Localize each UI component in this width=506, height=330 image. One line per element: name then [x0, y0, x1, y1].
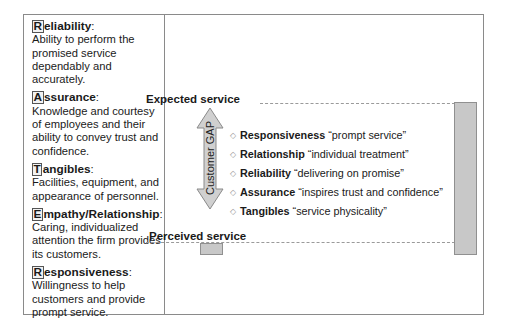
colon: : — [91, 163, 94, 175]
dimension-description: Facilities, equipment, and appearance of… — [32, 176, 164, 203]
expected-service-line — [260, 103, 455, 104]
dimension-title: esponsiveness — [44, 265, 129, 279]
expected-level-bar — [454, 102, 477, 255]
list-item: ◇Reliability “delivering on promise” — [230, 166, 443, 185]
diamond-bullet-icon: ◇ — [230, 169, 236, 178]
perceived-service-line — [146, 242, 455, 243]
diamond-bullet-icon: ◇ — [230, 207, 236, 216]
initial-letter: R — [32, 266, 44, 279]
dimension-description: Ability to perform the promised service … — [32, 33, 164, 86]
dimension-assurance: Assurance: Knowledge and courtesy of emp… — [32, 91, 164, 157]
list-item: ◇Assurance “inspires trust and confidenc… — [230, 185, 443, 204]
diamond-bullet-icon: ◇ — [230, 188, 236, 197]
diamond-bullet-icon: ◇ — [230, 150, 236, 159]
perceived-service-label: Perceived service — [149, 230, 246, 242]
dimension-tangibles: Tangibles: Facilities, equipment, and ap… — [32, 163, 164, 203]
initial-letter: T — [32, 163, 42, 176]
customer-gap-label: Customer GAP — [204, 121, 216, 195]
expected-service-label: Expected service — [146, 93, 240, 105]
dimensions-panel: Reliability: Ability to perform the prom… — [32, 20, 164, 324]
colon: : — [91, 20, 94, 32]
initial-letter: E — [32, 208, 43, 221]
dimension-title: angibles — [43, 162, 91, 176]
colon: : — [129, 266, 132, 278]
dimension-title: ssurance — [44, 90, 96, 104]
dimension-empathy: Empathy/Relationship: Caring, individual… — [32, 208, 164, 261]
list-item: ◇Responsiveness “prompt service” — [230, 128, 443, 147]
dimension-description: Knowledge and courtesy of employees and … — [32, 105, 164, 158]
colon: : — [96, 91, 99, 103]
initial-letter: R — [32, 20, 44, 33]
panel-divider — [164, 14, 165, 315]
gap-factors-list: ◇Responsiveness “prompt service” ◇Relati… — [230, 128, 443, 223]
dimension-reliability: Reliability: Ability to perform the prom… — [32, 20, 164, 86]
dimension-title: eliability — [44, 19, 91, 33]
perceived-level-bar — [200, 243, 223, 255]
dimension-title: mpathy/Relationship — [43, 207, 159, 221]
dimension-responsiveness: Responsiveness: Willingness to help cust… — [32, 266, 164, 319]
diamond-bullet-icon: ◇ — [230, 131, 236, 140]
colon: : — [159, 208, 162, 220]
dimension-description: Willingness to help customers and provid… — [32, 279, 164, 319]
list-item: ◇Relationship “individual treatment” — [230, 147, 443, 166]
dimension-description: Caring, individualized attention the fir… — [32, 221, 164, 261]
initial-letter: A — [32, 91, 44, 104]
list-item: ◇Tangibles “service physicality” — [230, 204, 443, 223]
